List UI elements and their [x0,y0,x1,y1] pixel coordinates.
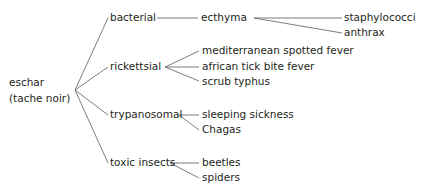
root-label-line1: eschar [9,76,44,89]
node-ecthyma: ecthyma [201,11,247,24]
node-african-tick-bite-fever: african tick bite fever [202,60,314,73]
node-chagas: Chagas [202,123,241,136]
connector-rickettsial-scrub [165,67,199,81]
eschar-differential-diagram: eschar (tache noir) bacterial rickettsia… [0,0,425,196]
category-trypanosomal: trypanosomal [110,108,182,121]
category-bacterial: bacterial [110,11,156,24]
connector-root-bacterial [75,18,108,90]
connector-root-trypanosomal [75,90,108,115]
connector-ecthyma-anthrax [254,18,342,33]
node-spiders: spiders [202,171,240,184]
category-toxic-insects: toxic insects [110,156,175,169]
node-scrub-typhus: scrub typhus [202,75,270,88]
connector-rickettsial-mediterranean [165,51,199,67]
connector-root-toxic-insects [75,90,108,163]
node-mediterranean-spotted-fever: mediterranean spotted fever [202,44,354,57]
root-label-line2: (tache noir) [9,92,70,105]
node-staphylococci: staphylococci [344,11,416,24]
node-anthrax: anthrax [344,26,385,39]
node-beetles: beetles [202,156,241,169]
category-rickettsial: rickettsial [110,60,161,73]
node-sleeping-sickness: sleeping sickness [202,108,294,121]
